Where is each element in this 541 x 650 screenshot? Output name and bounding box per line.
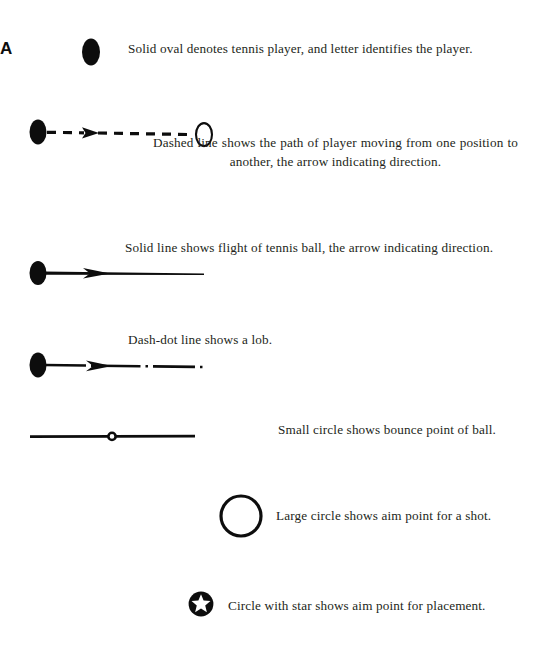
solid-line-with-arrow-icon <box>28 260 208 290</box>
dash-dot-line-with-arrow-icon <box>28 352 208 382</box>
legend-caption-movement: Dashed line shows the path of player mov… <box>153 133 518 171</box>
circle-with-star-placement-point-icon <box>186 588 220 622</box>
legend-caption-bounce: Small circle shows bounce point of ball. <box>278 420 518 439</box>
large-circle-aim-point-icon <box>218 492 268 540</box>
legend-caption-aim: Large circle shows aim point for a shot. <box>276 506 521 525</box>
legend-caption-lob: Dash-dot line shows a lob. <box>128 330 323 349</box>
legend-caption-player: Solid oval denotes tennis player, and le… <box>128 39 518 58</box>
legend-page: A Solid oval denotes tennis player, and … <box>0 0 541 650</box>
player-letter-label: A <box>0 40 12 57</box>
legend-caption-placement: Circle with star shows aim point for pla… <box>228 596 520 615</box>
solid-oval-player-marker-icon <box>80 36 106 68</box>
legend-caption-ball-flight: Solid line shows flight of tennis ball, … <box>125 238 518 257</box>
small-circle-bounce-point-icon <box>28 426 203 446</box>
